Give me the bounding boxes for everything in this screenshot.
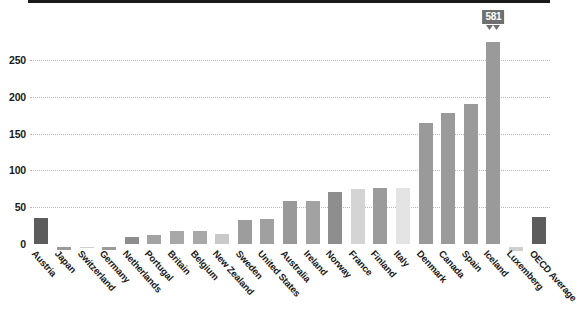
x-label-italy: Italy: [392, 248, 412, 269]
bar-belgium: [193, 231, 207, 244]
bar-oecd-average: [532, 217, 546, 244]
bar-norway: [328, 192, 342, 244]
plot-area: 581: [30, 10, 550, 246]
bar-new-zealand: [215, 234, 229, 244]
axis-break-zigzag-icon: [486, 35, 500, 42]
y-tick-label-200: 200: [9, 91, 26, 103]
bar-denmark: [419, 123, 433, 244]
bar-iceland: [486, 38, 500, 244]
bar-italy: [396, 188, 410, 244]
bar-spain: [464, 104, 478, 244]
bar-finland: [373, 188, 387, 244]
bar-australia: [283, 201, 297, 244]
bar-canada: [441, 113, 455, 244]
bar-austria: [34, 218, 48, 244]
y-tick-label-100: 100: [9, 164, 26, 176]
axis-break-zigzag-icon-upper: [486, 25, 500, 32]
y-tick-label-250: 250: [9, 54, 26, 66]
bar-united-states: [260, 219, 274, 244]
bar-ireland: [306, 201, 320, 244]
bar-netherlands: [125, 237, 139, 244]
y-axis: 050100150200250: [0, 10, 30, 246]
bar-france: [351, 189, 365, 244]
bar-britain: [170, 231, 184, 244]
x-axis-category-labels: AustriaJapanSwitzerlandGermanyNetherland…: [30, 248, 550, 324]
value-callout-iceland: 581: [483, 10, 505, 24]
x-axis-baseline: [28, 0, 550, 3]
y-tick-label-150: 150: [9, 128, 26, 140]
bar-portugal: [147, 235, 161, 244]
y-tick-label-0: 0: [20, 238, 26, 250]
bars: 581: [30, 10, 550, 246]
y-tick-label-50: 50: [15, 201, 26, 213]
bar-sweden: [238, 220, 252, 244]
